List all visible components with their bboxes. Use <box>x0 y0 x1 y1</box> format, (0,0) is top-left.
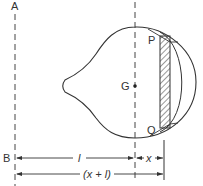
axis-label-a: A <box>11 0 19 12</box>
hatched-strip-pq <box>160 36 170 128</box>
point-label-p: P <box>148 34 155 46</box>
dimension-label-total: (x + l) <box>83 168 111 180</box>
arrowhead-l-left <box>16 156 22 160</box>
arrowhead-l-right <box>128 156 134 160</box>
moment-of-inertia-diagram: A B P Q G l x (x + l) <box>0 0 203 186</box>
arrowhead-total-left <box>16 172 22 176</box>
dimension-label-x: x <box>145 152 152 164</box>
centroid-dot <box>133 84 137 88</box>
centroid-label-g: G <box>121 80 130 92</box>
dimension-label-l: l <box>78 152 81 164</box>
axis-label-b: B <box>3 152 10 164</box>
arrowhead-x-right <box>157 156 163 160</box>
point-label-q: Q <box>147 124 156 136</box>
arrowhead-total-right <box>157 172 163 176</box>
